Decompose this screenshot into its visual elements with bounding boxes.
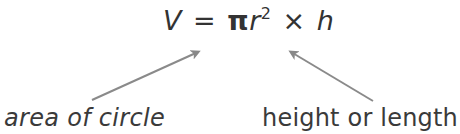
label-area-of-circle: area of circle bbox=[4, 104, 165, 132]
label-height-or-length: height or length bbox=[262, 104, 458, 132]
arrow-to-area-icon bbox=[92, 52, 198, 100]
arrow-to-height-icon bbox=[291, 52, 373, 101]
